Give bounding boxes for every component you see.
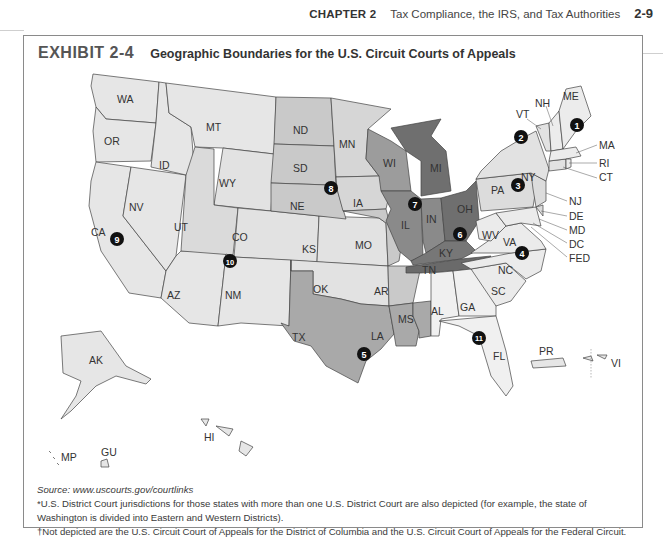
- page-number: 2-9: [634, 6, 653, 21]
- state-mp: [49, 451, 59, 465]
- state-gu: [101, 459, 109, 467]
- label-co: CO: [232, 231, 248, 243]
- circuit-marker-4: 4: [515, 246, 529, 260]
- svg-text:10: 10: [226, 258, 234, 267]
- circuit-marker-3: 3: [511, 178, 525, 192]
- label-il: IL: [401, 219, 410, 231]
- footnote-a: *U.S. District Court jurisdictions for t…: [37, 497, 637, 525]
- label-nm: NM: [225, 289, 241, 301]
- label-gu: GU: [101, 446, 117, 458]
- label-wa: WA: [117, 93, 134, 105]
- circuit-marker-7: 7: [408, 197, 422, 211]
- label-in: IN: [426, 213, 437, 225]
- label-ia: IA: [353, 197, 363, 209]
- label-pr: PR: [539, 345, 554, 357]
- label-nv: NV: [129, 201, 144, 213]
- chapter-label: CHAPTER 2: [309, 8, 376, 20]
- label-ga: GA: [460, 301, 475, 313]
- label-fed: FED: [569, 252, 590, 264]
- label-nj: NJ: [569, 195, 582, 207]
- label-ri: RI: [599, 157, 610, 169]
- circuit-marker-9: 9: [110, 232, 124, 246]
- label-la: LA: [371, 330, 384, 342]
- circuit-marker-6: 6: [453, 227, 467, 241]
- label-mp: MP: [61, 451, 77, 463]
- circuit-map: WA OR CA NV ID MT WY UT CO AZ NM ND SD N…: [24, 36, 644, 481]
- label-ok: OK: [313, 283, 328, 295]
- divider: [641, 53, 663, 54]
- svg-text:11: 11: [475, 334, 483, 343]
- circuit-marker-5: 5: [357, 347, 371, 361]
- label-mt: MT: [206, 121, 222, 133]
- running-head: CHAPTER 2 Tax Compliance, the IRS, and T…: [309, 6, 653, 21]
- svg-text:2: 2: [518, 133, 523, 143]
- label-va: VA: [503, 236, 516, 248]
- label-ma: MA: [599, 139, 615, 151]
- label-mn: MN: [339, 138, 355, 150]
- label-or: OR: [104, 135, 120, 147]
- svg-text:1: 1: [574, 121, 579, 131]
- exhibit-box: EXHIBIT 2-4 Geographic Boundaries for th…: [23, 35, 643, 528]
- label-al: AL: [431, 305, 444, 317]
- label-ut: UT: [174, 221, 189, 233]
- label-sc: SC: [491, 285, 506, 297]
- label-wi: WI: [383, 157, 396, 169]
- label-nh: NH: [535, 97, 550, 109]
- label-ms: MS: [398, 313, 414, 325]
- footnote-b: †Not depicted are the U.S. Circuit Court…: [37, 525, 637, 539]
- svg-text:8: 8: [328, 184, 333, 194]
- circuit-marker-10: 10: [223, 254, 237, 268]
- label-vt: VT: [516, 108, 530, 120]
- label-sd: SD: [293, 162, 308, 174]
- state-pr: [531, 358, 566, 368]
- label-vi: VI: [611, 357, 621, 369]
- label-pa: PA: [491, 184, 504, 196]
- label-ky: KY: [439, 247, 453, 259]
- state-vi: [583, 355, 607, 361]
- label-de: DE: [569, 210, 584, 222]
- svg-text:4: 4: [519, 249, 524, 259]
- divider: [0, 30, 24, 31]
- state-ny: [476, 131, 549, 181]
- label-hi: HI: [204, 431, 215, 443]
- label-me: ME: [563, 90, 579, 102]
- circuit-marker-11: 11: [472, 331, 486, 345]
- chapter-title: Tax Compliance, the IRS, and Tax Authori…: [390, 8, 620, 20]
- state-ri: [566, 159, 571, 169]
- exhibit-notes: Source: www.uscourts.gov/courtlinks *U.S…: [37, 483, 637, 539]
- state-nd: [274, 97, 334, 146]
- label-dc: DC: [569, 238, 585, 250]
- label-fl: FL: [493, 350, 505, 362]
- label-ct: CT: [599, 171, 614, 183]
- label-az: AZ: [167, 289, 181, 301]
- label-md: MD: [569, 224, 586, 236]
- label-ca: CA: [91, 226, 106, 238]
- circuit-marker-1: 1: [570, 118, 584, 132]
- label-oh: OH: [457, 203, 473, 215]
- state-ks: [317, 216, 388, 266]
- label-wv: WV: [482, 229, 499, 241]
- label-nd: ND: [293, 124, 309, 136]
- circuit-marker-8: 8: [324, 181, 338, 195]
- svg-text:5: 5: [361, 350, 366, 360]
- state-ak: [61, 331, 151, 419]
- label-tn: TN: [422, 264, 436, 276]
- label-ar: AR: [374, 285, 389, 297]
- label-wy: WY: [219, 177, 236, 189]
- svg-text:9: 9: [114, 235, 119, 245]
- label-id: ID: [159, 159, 170, 171]
- source-note: Source: www.uscourts.gov/courtlinks: [37, 483, 637, 497]
- label-ne: NE: [290, 200, 305, 212]
- label-mi: MI: [430, 162, 442, 174]
- circuit-marker-2: 2: [514, 130, 528, 144]
- label-tx: TX: [292, 331, 305, 343]
- label-mo: MO: [355, 239, 372, 251]
- label-ak: AK: [89, 354, 103, 366]
- label-nc: NC: [498, 264, 514, 276]
- svg-text:6: 6: [457, 230, 462, 240]
- label-ks: KS: [302, 243, 316, 255]
- svg-text:3: 3: [515, 181, 520, 191]
- svg-text:7: 7: [412, 200, 417, 210]
